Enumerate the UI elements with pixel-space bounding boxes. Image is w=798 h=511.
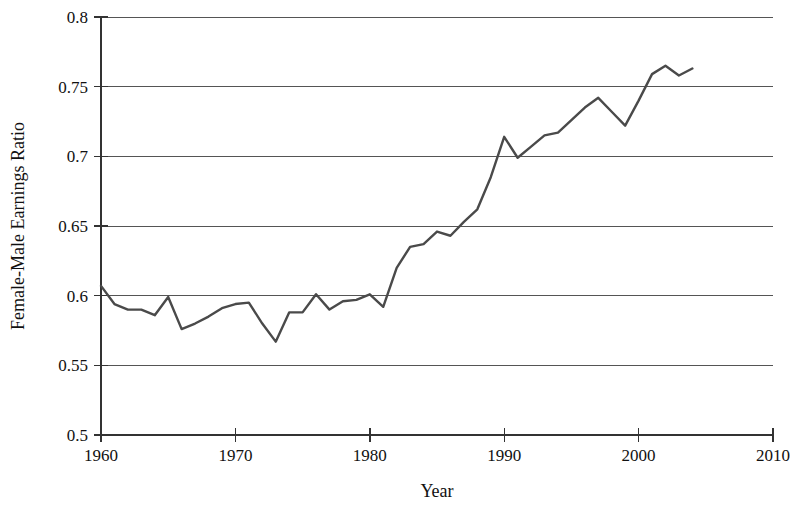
data-series-line <box>101 66 692 342</box>
line-chart: 0.50.550.60.650.70.750.8 196019701980199… <box>0 0 798 511</box>
x-tick-labels: 196019701980199020002010 <box>84 446 790 465</box>
y-tick-label: 0.6 <box>67 287 88 306</box>
x-tick-label: 1980 <box>353 446 387 465</box>
y-tick-label: 0.55 <box>58 356 88 375</box>
y-tick-labels: 0.50.550.60.650.70.750.8 <box>58 8 88 445</box>
gridlines <box>101 17 773 435</box>
x-tick-label: 1990 <box>487 446 521 465</box>
x-tick-label: 2010 <box>756 446 790 465</box>
y-tick-label: 0.65 <box>58 217 88 236</box>
x-axis <box>101 428 773 442</box>
y-axis <box>94 17 108 435</box>
x-axis-title: Year <box>420 481 453 501</box>
x-tick-label: 2000 <box>622 446 656 465</box>
x-tick-label: 1960 <box>84 446 118 465</box>
y-tick-label: 0.8 <box>67 8 88 27</box>
x-tick-label: 1970 <box>218 446 252 465</box>
chart-container: 0.50.550.60.650.70.750.8 196019701980199… <box>0 0 798 511</box>
y-tick-label: 0.75 <box>58 78 88 97</box>
y-tick-label: 0.7 <box>67 147 89 166</box>
y-axis-title: Female-Male Earnings Ratio <box>8 122 28 330</box>
y-tick-label: 0.5 <box>67 426 88 445</box>
